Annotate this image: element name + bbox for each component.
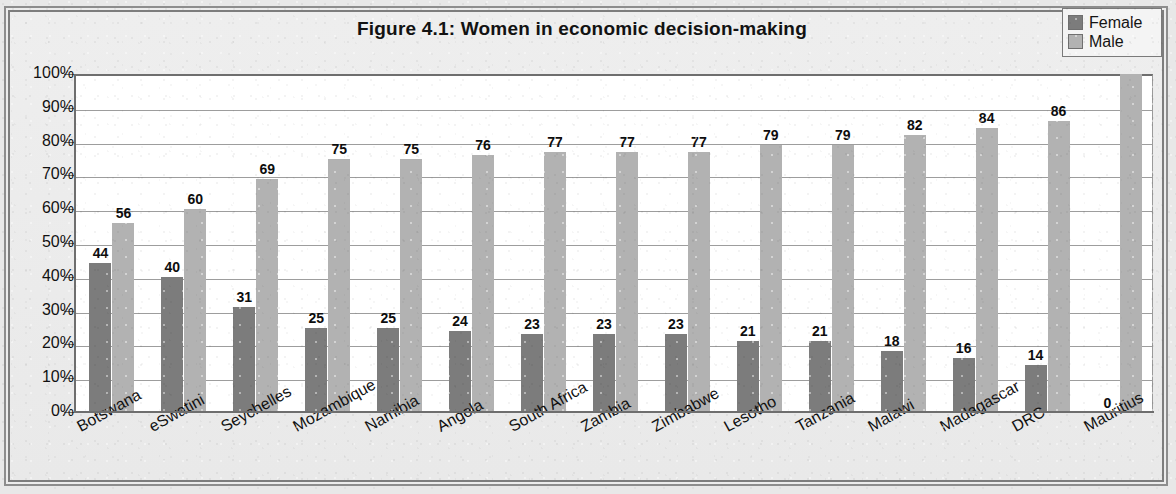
- bar-group: 2377: [508, 76, 580, 412]
- bar-value-label: 77: [547, 134, 563, 150]
- legend-swatch-icon: [1068, 34, 1083, 49]
- bar-male: 79: [832, 145, 854, 412]
- x-tick: South Africa: [506, 414, 578, 494]
- x-axis-line: [74, 411, 1154, 413]
- legend-item-female: Female: [1068, 13, 1155, 32]
- x-tick: Seychelles: [218, 414, 290, 494]
- legend-label: Male: [1089, 33, 1124, 51]
- bar-value-label: 14: [1028, 347, 1044, 363]
- bar-group: 4456: [76, 76, 148, 412]
- bar-group: 2575: [292, 76, 364, 412]
- x-tick: Lesotho: [721, 414, 793, 494]
- bar-value-label: 82: [907, 117, 923, 133]
- bar-value-label: 77: [619, 134, 635, 150]
- bar-male: 56: [112, 223, 134, 412]
- bar-value-label: 24: [452, 313, 468, 329]
- bar-value-label: 56: [116, 205, 132, 221]
- bar-group: 1882: [867, 76, 939, 412]
- bar-male: 82: [904, 135, 926, 412]
- bar-group: 1486: [1011, 76, 1083, 412]
- bar-male: 77: [688, 152, 710, 412]
- bar-value-label: 21: [812, 323, 828, 339]
- bar-group: 2476: [436, 76, 508, 412]
- chart-title: Figure 4.1: Women in economic decision-m…: [0, 18, 1164, 40]
- legend-item-male: Male: [1068, 32, 1155, 51]
- bar-value-label: 77: [691, 134, 707, 150]
- legend-label: Female: [1089, 14, 1142, 32]
- x-tick: Madagascar: [937, 414, 1009, 494]
- x-tick: Angola: [434, 414, 506, 494]
- bar-value-label: 75: [403, 141, 419, 157]
- bar-male: 84: [976, 128, 998, 412]
- chart-legend: FemaleMale: [1062, 8, 1162, 57]
- x-tick: Malawi: [865, 414, 937, 494]
- bar-male: 77: [616, 152, 638, 412]
- bar-female: 25: [305, 328, 327, 413]
- bar-female: 40: [161, 277, 183, 412]
- bar-group: 2575: [364, 76, 436, 412]
- legend-swatch-icon: [1068, 15, 1083, 30]
- x-tick: Tanzania: [793, 414, 865, 494]
- bar-group: 2179: [723, 76, 795, 412]
- figure-screenshot: Figure 4.1: Women in economic decision-m…: [0, 0, 1176, 494]
- x-tick: DRC: [1009, 414, 1081, 494]
- bar-value-label: 69: [260, 161, 276, 177]
- bar-female: 44: [89, 263, 111, 412]
- y-tick-label: 50%: [12, 233, 74, 251]
- bar-male: 77: [544, 152, 566, 412]
- bar-female: 31: [233, 307, 255, 412]
- x-tick: Zambia: [578, 414, 650, 494]
- bar-male: 100: [1120, 74, 1142, 412]
- y-tick-label: 10%: [12, 368, 74, 386]
- bar-value-label: 75: [331, 141, 347, 157]
- y-tick-label: 30%: [12, 301, 74, 319]
- bar-male: 86: [1048, 121, 1070, 412]
- y-tick-label: 40%: [12, 267, 74, 285]
- bar-value-label: 60: [188, 191, 204, 207]
- bar-male: 75: [328, 159, 350, 413]
- x-tick: Botswana: [74, 414, 146, 494]
- bar-group: 4060: [148, 76, 220, 412]
- bar-male: 75: [400, 159, 422, 413]
- y-tick-label: 0%: [12, 402, 74, 420]
- y-tick-label: 90%: [12, 98, 74, 116]
- bar-male: 79: [760, 145, 782, 412]
- bar-group: 2377: [651, 76, 723, 412]
- bar-value-label: 76: [475, 137, 491, 153]
- bar-group: 1684: [939, 76, 1011, 412]
- y-tick-label: 60%: [12, 199, 74, 217]
- bar-female: 25: [377, 328, 399, 413]
- bar-value-label: 31: [237, 289, 253, 305]
- bar-value-label: 79: [763, 127, 779, 143]
- bar-value-label: 25: [308, 310, 324, 326]
- bar-value-label: 44: [93, 245, 109, 261]
- x-tick: Mozambique: [290, 414, 362, 494]
- x-tick: Zimbabwe: [649, 414, 721, 494]
- bar-value-label: 79: [835, 127, 851, 143]
- y-tick-label: 100%: [12, 64, 74, 82]
- bar-male: 60: [184, 209, 206, 412]
- bar-male: 76: [472, 155, 494, 412]
- bar-value-label: 16: [956, 340, 972, 356]
- bar-value-label: 23: [524, 316, 540, 332]
- bar-group: 3169: [220, 76, 292, 412]
- bar-group: 2179: [795, 76, 867, 412]
- y-tick-label: 80%: [12, 132, 74, 150]
- bar-group: 2377: [580, 76, 652, 412]
- bar-value-label: 18: [884, 333, 900, 349]
- x-tick: eSwatini: [146, 414, 218, 494]
- x-axis: BotswanaeSwatiniSeychellesMozambiqueNami…: [74, 414, 1154, 494]
- bar-value-label: 40: [165, 259, 181, 275]
- bar-value-label: 21: [740, 323, 756, 339]
- y-tick-label: 70%: [12, 165, 74, 183]
- plot-area: 4456406031692575257524762377237723772179…: [74, 74, 1153, 412]
- bar-value-label: 84: [979, 110, 995, 126]
- x-tick: Namibia: [362, 414, 434, 494]
- bar-value-label: 86: [1051, 103, 1067, 119]
- bar-male: 69: [256, 179, 278, 412]
- bar-value-label: 23: [668, 316, 684, 332]
- y-axis: 100%90%80%70%60%50%40%30%20%10%0%: [0, 0, 74, 494]
- bar-value-label: 25: [380, 310, 396, 326]
- x-tick: Mauritius: [1081, 414, 1153, 494]
- bar-value-label: 23: [596, 316, 612, 332]
